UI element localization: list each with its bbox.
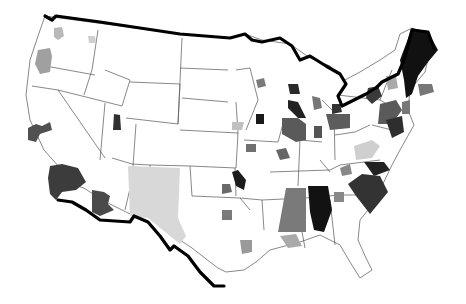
region-ga-med [334,192,344,202]
region-in-med [314,126,322,138]
region-oh-med [326,114,350,130]
region-wa-east [88,36,96,43]
region-ma-med [418,84,434,96]
region-nj-med [402,100,410,114]
region-ks-med [246,144,256,152]
us-choropleth-map [0,0,466,304]
region-tx-med [222,210,232,220]
region-wi-dark [288,84,300,94]
region-ne-light [232,122,244,130]
region-ut-dark [113,114,121,130]
region-tx-east-light [240,240,252,254]
region-ia-dark [256,114,264,124]
